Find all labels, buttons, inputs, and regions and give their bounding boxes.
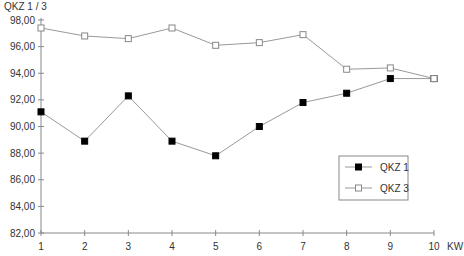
data-point-marker [300, 100, 306, 106]
legend-label: QKZ 1 [380, 162, 409, 173]
data-point-marker [213, 42, 219, 48]
x-tick-label: 2 [82, 241, 88, 252]
x-tick-label: 10 [428, 241, 440, 252]
data-point-marker [38, 25, 44, 31]
series-qkz-3 [38, 25, 437, 82]
data-point-marker [431, 76, 437, 82]
data-point-marker [256, 124, 262, 130]
data-point-marker [125, 36, 131, 42]
x-axis-label: KW [447, 241, 464, 252]
y-tick-label: 96,00 [10, 41, 35, 52]
x-tick-label: 3 [126, 241, 132, 252]
data-point-marker [387, 76, 393, 82]
legend: QKZ 1QKZ 3 [339, 156, 409, 200]
y-tick-label: 86,00 [10, 174, 35, 185]
y-axis-label: QKZ 1 / 3 [4, 1, 47, 12]
data-point-marker [169, 25, 175, 31]
y-tick-label: 84,00 [10, 201, 35, 212]
data-point-marker [125, 93, 131, 99]
y-tick-label: 90,00 [10, 121, 35, 132]
data-point-marker [169, 138, 175, 144]
x-tick-label: 6 [257, 241, 263, 252]
legend-label: QKZ 3 [380, 183, 409, 194]
legend-marker-icon [356, 185, 362, 191]
data-point-marker [82, 33, 88, 39]
data-point-marker [256, 40, 262, 46]
series-qkz-1 [38, 76, 437, 159]
y-tick-label: 94,00 [10, 68, 35, 79]
y-tick-label: 98,00 [10, 15, 35, 26]
x-tick-label: 4 [169, 241, 175, 252]
data-point-marker [38, 109, 44, 115]
x-tick-label: 1 [38, 241, 44, 252]
x-tick-label: 5 [213, 241, 219, 252]
x-tick-label: 8 [344, 241, 350, 252]
x-tick-label: 7 [300, 241, 306, 252]
data-point-marker [344, 66, 350, 72]
y-tick-label: 82,00 [10, 228, 35, 239]
y-tick-label: 88,00 [10, 148, 35, 159]
data-point-marker [387, 65, 393, 71]
y-tick-label: 92,00 [10, 94, 35, 105]
line-chart: QKZ 1 / 382,0084,0086,0088,0090,0092,009… [0, 0, 464, 256]
data-point-marker [213, 153, 219, 159]
x-tick-label: 9 [388, 241, 394, 252]
data-point-marker [82, 138, 88, 144]
legend-marker-icon [356, 164, 362, 170]
data-point-marker [300, 32, 306, 38]
data-point-marker [344, 90, 350, 96]
